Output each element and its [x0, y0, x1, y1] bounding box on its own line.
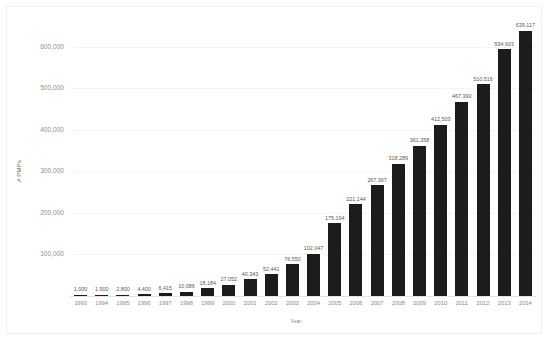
- bar[interactable]: [455, 102, 468, 296]
- bar-group[interactable]: 412,503: [430, 111, 451, 296]
- bar[interactable]: [222, 285, 235, 296]
- bar[interactable]: [116, 295, 129, 296]
- x-axis-title: Year: [290, 318, 301, 324]
- chart-screenshot: 100,000200,000300,000400,000500,000600,0…: [0, 0, 550, 342]
- bar[interactable]: [477, 84, 490, 296]
- bar[interactable]: [349, 204, 362, 296]
- bar[interactable]: [307, 254, 320, 296]
- bar[interactable]: [392, 164, 405, 296]
- bar[interactable]: [328, 223, 341, 296]
- bar-group[interactable]: 267,367: [367, 171, 388, 296]
- x-tick-label: 2014: [511, 300, 540, 306]
- bar-group[interactable]: 318,289: [388, 150, 409, 296]
- bar[interactable]: [244, 279, 257, 296]
- bar[interactable]: [434, 125, 447, 296]
- bar-group[interactable]: 361,358: [409, 132, 430, 296]
- bar-group[interactable]: 594,603: [494, 35, 515, 296]
- bar[interactable]: [74, 295, 87, 296]
- bar[interactable]: [519, 31, 532, 296]
- bar[interactable]: [265, 274, 278, 296]
- bar[interactable]: [371, 185, 384, 296]
- bar[interactable]: [180, 292, 193, 296]
- bar-group[interactable]: 510,516: [473, 70, 494, 296]
- bar-group[interactable]: 221,144: [345, 190, 366, 296]
- plot-region: 100,000200,000300,000400,000500,000600,0…: [0, 0, 550, 342]
- bar-group[interactable]: 467,390: [451, 88, 472, 296]
- bar-group[interactable]: 639,117: [515, 17, 536, 296]
- bar[interactable]: [95, 295, 108, 296]
- bar-group[interactable]: 52,441: [261, 260, 282, 296]
- bar-group[interactable]: 102,047: [303, 240, 324, 296]
- bar[interactable]: [138, 294, 151, 296]
- bar[interactable]: [159, 293, 172, 296]
- bar[interactable]: [498, 49, 511, 296]
- bar[interactable]: [286, 264, 299, 296]
- bars-layer: 1,00019931,90019942,80019954,40019966,41…: [0, 0, 550, 342]
- bar[interactable]: [413, 146, 426, 296]
- bar-group[interactable]: 175,194: [324, 209, 345, 296]
- bar-value-label: 639,117: [508, 22, 543, 28]
- bar-group[interactable]: 76,550: [282, 250, 303, 296]
- bar[interactable]: [201, 288, 214, 296]
